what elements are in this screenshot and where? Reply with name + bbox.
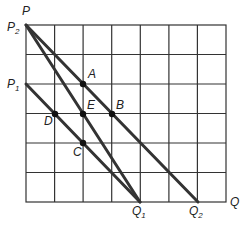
point-a [80,81,86,87]
label-p1: P1 [7,77,19,93]
point-d [52,111,58,117]
label-a: A [87,67,96,81]
label-d: D [44,114,53,128]
x-axis-label: Q [230,195,239,209]
labels: P P2 P1 A B C D E Q1 Q2 Q [7,4,239,220]
point-b [109,111,115,117]
label-c: C [73,145,82,159]
label-b: B [116,98,124,112]
label-q2: Q2 [189,204,203,220]
label-e: E [87,98,96,112]
point-e [80,111,86,117]
label-q1: Q1 [132,204,146,220]
diagram-canvas: P P2 P1 A B C D E Q1 Q2 Q [0,0,245,226]
label-p2: P2 [7,20,20,36]
y-axis-label: P [22,4,30,18]
